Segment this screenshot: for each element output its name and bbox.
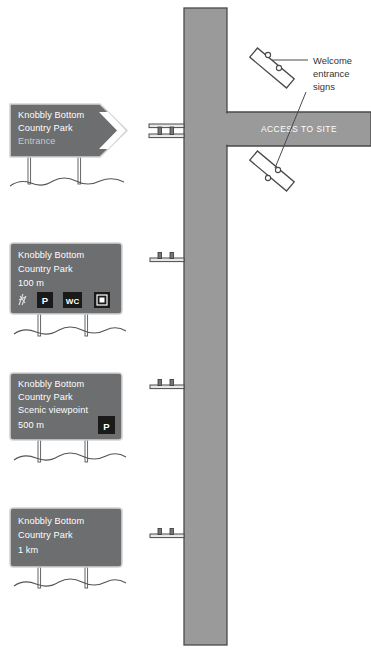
sign-line: Knobbly Bottom <box>18 110 85 120</box>
ground-line <box>14 453 126 460</box>
signage-diagram: ACCESS TO SITE <box>0 0 371 653</box>
marker-post <box>158 253 161 259</box>
sign-post <box>28 157 31 184</box>
distance-sign-100m[interactable]: Knobbly Bottom Country Park 100 m P WC <box>10 243 126 336</box>
marker-post <box>170 127 173 134</box>
ground-line <box>10 178 124 186</box>
sign-line: 100 m <box>18 278 44 288</box>
diagram-canvas: ACCESS TO SITE <box>0 0 371 653</box>
roadside-sign-marker-2 <box>150 253 184 262</box>
sign-post <box>85 440 88 462</box>
roadside-sign-marker-4 <box>150 529 184 538</box>
marker-post <box>170 529 173 535</box>
sign-line: 1 km <box>18 545 39 555</box>
marker-post <box>158 380 161 386</box>
sign-line: Knobbly Bottom <box>18 516 85 526</box>
scenic-viewpoint-sign-500m[interactable]: Knobbly Bottom Country Park Scenic viewp… <box>10 373 126 462</box>
sign-line: Knobbly Bottom <box>18 379 85 389</box>
sign-line: Entrance <box>18 136 56 146</box>
distance-sign-1km[interactable]: Knobbly Bottom Country Park 1 km <box>10 508 126 588</box>
roadside-sign-marker-3 <box>150 380 184 389</box>
parking-icon-label: P <box>42 295 49 306</box>
toilets-icon: WC <box>63 292 82 308</box>
parking-icon: P <box>37 292 53 308</box>
marker-post <box>158 127 161 134</box>
callout-line-2: entrance <box>313 68 349 79</box>
welcome-sign-post <box>265 52 270 57</box>
welcome-sign-lower <box>250 151 294 191</box>
parking-icon: P <box>98 416 115 434</box>
sign-line: Country Park <box>18 392 73 402</box>
callout-line-3: signs <box>313 81 335 92</box>
welcome-sign-post <box>275 167 280 172</box>
callout-line-1: Welcome <box>313 55 352 66</box>
parking-icon-label: P <box>103 421 110 432</box>
sign-line: Country Park <box>18 123 73 133</box>
roadside-sign-marker-1 <box>149 124 184 138</box>
information-icon <box>94 292 110 308</box>
sign-line: Scenic viewpoint <box>18 405 88 415</box>
road-network: ACCESS TO SITE <box>184 8 371 645</box>
ground-line <box>14 327 126 334</box>
access-road-label: ACCESS TO SITE <box>261 124 337 134</box>
welcome-sign-upper <box>250 48 294 88</box>
sign-line: 500 m <box>18 420 44 430</box>
sign-line: Country Park <box>18 530 73 540</box>
toilets-icon-label: WC <box>66 297 80 306</box>
welcome-sign-post <box>265 175 270 180</box>
marker-post <box>170 380 173 386</box>
junction-seam-mask <box>222 113 230 144</box>
entrance-sign[interactable]: Knobbly Bottom Country Park Entrance <box>10 104 127 186</box>
ground-line <box>14 579 126 586</box>
main-vertical-road <box>184 8 227 645</box>
welcome-entrance-signs-callout: Welcome entrance signs <box>313 55 352 92</box>
sign-post <box>85 314 88 336</box>
marker-post <box>170 253 173 259</box>
marker-post <box>158 529 161 535</box>
welcome-sign-post <box>276 65 281 70</box>
sign-line: Country Park <box>18 264 73 274</box>
sign-post <box>85 567 88 588</box>
sign-post <box>78 157 81 184</box>
sign-line: Knobbly Bottom <box>18 250 85 260</box>
